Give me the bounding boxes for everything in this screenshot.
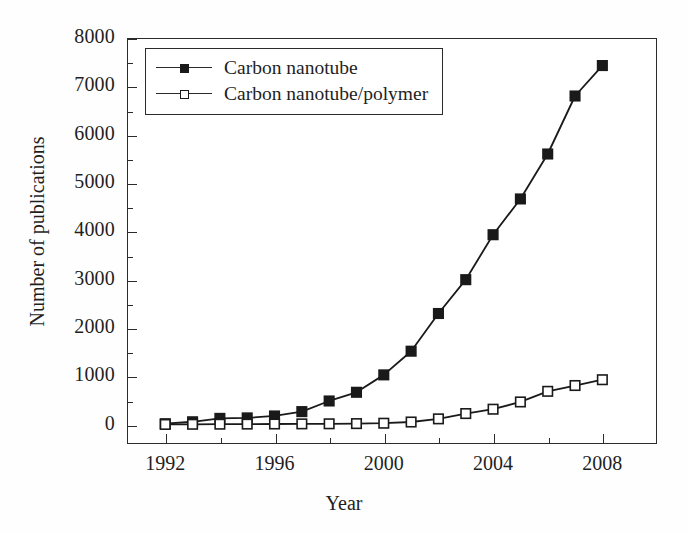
y-tick-minor (128, 112, 133, 113)
legend-item-carbon-nanotube-polymer: Carbon nanotube/polymer (156, 81, 428, 107)
y-tick-major (128, 184, 137, 185)
x-axis-title: Year (0, 492, 688, 515)
y-tick-major (128, 39, 137, 40)
legend-marker-filled-square-icon (156, 61, 212, 75)
legend-label: Carbon nanotube (224, 57, 358, 79)
y-tick-major (128, 232, 137, 233)
x-tick-label: 2000 (364, 452, 404, 475)
legend-label: Carbon nanotube/polymer (224, 83, 428, 105)
y-tick-major (128, 377, 137, 378)
x-tick-major (385, 434, 386, 443)
legend-item-carbon-nanotube: Carbon nanotube (156, 55, 428, 81)
chart-legend: Carbon nanotube Carbon nanotube/polymer (145, 48, 443, 115)
x-tick-label: 2004 (473, 452, 513, 475)
y-tick-minor (128, 305, 133, 306)
y-tick-minor (128, 208, 133, 209)
y-tick-major (128, 87, 137, 88)
x-tick-minor (549, 438, 550, 443)
x-tick-label: 1992 (145, 452, 185, 475)
y-tick-minor (128, 402, 133, 403)
y-tick-major (128, 329, 137, 330)
legend-marker-open-square-icon (156, 87, 212, 101)
y-axis-title: Number of publications (26, 32, 49, 432)
y-tick-minor (128, 353, 133, 354)
x-tick-label: 2008 (582, 452, 622, 475)
x-tick-label: 1996 (255, 452, 295, 475)
y-tick-major (128, 426, 137, 427)
y-tick-major (128, 281, 137, 282)
y-tick-major (128, 136, 137, 137)
x-tick-major (276, 434, 277, 443)
y-tick-minor (128, 63, 133, 64)
chart-figure: 010002000300040005000600070008000 199219… (0, 0, 688, 534)
y-tick-minor (128, 160, 133, 161)
x-tick-major (603, 434, 604, 443)
x-tick-major (494, 434, 495, 443)
x-tick-major (166, 434, 167, 443)
x-tick-minor (221, 438, 222, 443)
y-tick-minor (128, 257, 133, 258)
x-tick-minor (439, 438, 440, 443)
x-tick-minor (330, 438, 331, 443)
